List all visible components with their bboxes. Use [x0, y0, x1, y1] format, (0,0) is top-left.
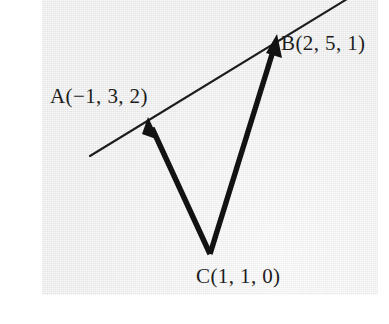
figure-root: A(−1, 3, 2) B(2, 5, 1) C(1, 1, 0) [0, 0, 389, 324]
vector-ca-arrowhead [142, 117, 159, 140]
point-label-a: A(−1, 3, 2) [50, 86, 148, 107]
vector-cb-shaft [210, 48, 274, 254]
line-through-ab [90, 0, 352, 156]
vector-ca-shaft [152, 128, 210, 254]
point-label-c: C(1, 1, 0) [196, 266, 281, 287]
point-label-b: B(2, 5, 1) [281, 33, 366, 54]
